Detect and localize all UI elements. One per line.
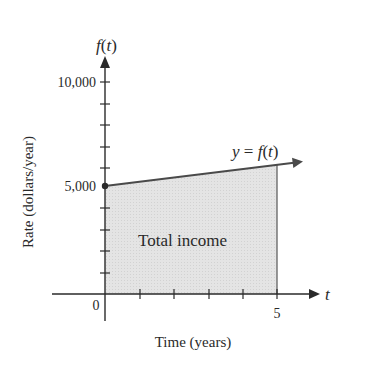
- x-axis-title: Time (years): [155, 334, 232, 351]
- start-point-marker: [102, 183, 108, 189]
- x-tick-label-5: 5: [274, 306, 281, 321]
- y-axis-symbol: f(t): [96, 36, 117, 55]
- x-tick-label-0: 0: [93, 298, 100, 313]
- x-axis-arrow-icon: [309, 289, 320, 299]
- y-tick-label-5000: 5,000: [65, 179, 97, 194]
- y-axis-title: Rate (dollars/year): [20, 136, 37, 248]
- chart-canvas: f(t) t 10,000 5,000 0 5 y = f(t) Total i…: [0, 0, 372, 382]
- series-arrow-icon: [292, 158, 303, 168]
- y-axis-arrow-icon: [100, 56, 110, 68]
- total-income-region: [105, 165, 277, 294]
- region-label: Total income: [138, 231, 227, 250]
- y-tick-label-10000: 10,000: [58, 75, 97, 90]
- curve-label: y = f(t): [230, 142, 278, 161]
- x-axis-symbol: t: [325, 285, 331, 304]
